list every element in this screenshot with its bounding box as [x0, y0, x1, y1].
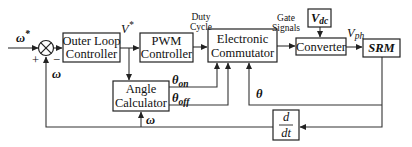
pwm-label-2: Controller — [141, 47, 193, 61]
outer-loop-controller-block: Outer Loop Controller — [63, 33, 121, 62]
pwm-controller-block: PWM Controller — [140, 33, 193, 62]
electronic-commutator-block: Electronic Commutator — [208, 29, 277, 62]
svg-text:Vph: Vph — [347, 26, 364, 41]
theta-off-sub: off — [179, 97, 191, 107]
vph-sub: ph — [354, 31, 365, 41]
angle-calc-label-1: Angle — [126, 82, 157, 96]
srm-label: SRM — [368, 41, 395, 55]
omega-feedback-label: ω — [52, 67, 61, 81]
srm-block: SRM — [363, 39, 400, 57]
theta-on-sub: on — [179, 79, 189, 89]
angle-calculator-block: Angle Calculator — [113, 81, 169, 111]
svg-text:V*: V* — [121, 20, 134, 36]
pwm-label-1: PWM — [152, 34, 182, 48]
converter-label: Converter — [296, 40, 347, 54]
summing-junction — [39, 41, 54, 56]
omega-angle-label: ω — [146, 113, 155, 127]
vstar-sup: * — [129, 20, 134, 30]
minus-sign: − — [53, 53, 60, 67]
gate-label-1: Gate — [277, 13, 295, 23]
theta-feedback-wire — [249, 63, 382, 105]
gate-label-2: Signals — [272, 23, 300, 33]
block-diagram: Outer Loop Controller PWM Controller Ele… — [0, 0, 412, 147]
svg-text:ω*: ω* — [16, 29, 30, 45]
outer-loop-label-2: Controller — [66, 47, 118, 61]
theta-label: θ — [256, 87, 263, 101]
vdc-subscript: dc — [319, 16, 329, 26]
duty-label-2: Cycle — [190, 22, 212, 32]
omega-ref-sup: * — [25, 29, 30, 39]
commutator-label-1: Electronic — [217, 32, 269, 46]
converter-block: Converter — [296, 38, 347, 55]
svg-text:θoff: θoff — [172, 91, 190, 107]
commutator-label-2: Commutator — [211, 46, 275, 60]
svg-text:θon: θon — [172, 73, 189, 89]
outer-loop-label-1: Outer Loop — [63, 34, 121, 48]
ddt-denominator: dt — [281, 126, 291, 140]
derivative-block: d dt — [273, 110, 299, 140]
plus-sign: + — [32, 53, 39, 67]
angle-calc-label-2: Calculator — [115, 96, 168, 110]
srm-to-ddt-wire — [300, 57, 382, 127]
ddt-numerator: d — [283, 110, 290, 124]
duty-label-1: Duty — [192, 12, 211, 22]
omega-ref-label: ω — [16, 31, 25, 45]
vdc-block: Vdc — [308, 9, 331, 27]
